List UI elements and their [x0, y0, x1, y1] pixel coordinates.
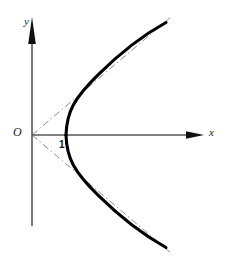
hyperbola-upper-branch	[66, 23, 166, 136]
hyperbola-lower-branch	[66, 135, 166, 248]
asymptote-negative-line	[32, 135, 171, 253]
y-axis-label: y	[24, 16, 29, 27]
hyperbola-figure: y x O 1	[0, 0, 227, 267]
x-tick-label-1: 1	[59, 140, 65, 150]
plot-canvas	[0, 0, 227, 267]
x-axis-label: x	[209, 127, 214, 138]
x-axis-arrowhead	[186, 131, 204, 139]
asymptote-positive-line	[32, 17, 171, 135]
origin-label: O	[13, 126, 22, 138]
y-axis-arrowhead	[28, 17, 36, 44]
